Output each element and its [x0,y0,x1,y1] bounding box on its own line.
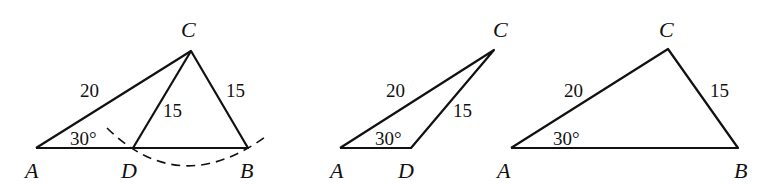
segment-cd [133,51,191,148]
label-side-cd: 15 [163,100,182,121]
label-angle-a: 30° [553,128,580,149]
label-side-ac: 20 [564,80,583,101]
label-side-cd: 15 [453,100,472,121]
label-point-a: A [23,158,39,183]
label-point-a: A [328,158,344,183]
triangle-diagrams: C 20 15 15 30° A D B C 20 15 30° A D C 2… [0,0,769,185]
figure-3-labels: C 20 15 30° A B [495,17,747,183]
label-side-cb: 15 [710,80,729,101]
label-side-ac: 20 [386,80,405,101]
label-point-b: B [240,158,253,183]
label-angle-a: 30° [70,128,97,149]
label-angle-a: 30° [375,128,402,149]
label-side-ac: 20 [80,80,99,101]
label-point-c: C [181,17,196,42]
label-point-c: C [659,17,674,42]
figure-2-labels: C 20 15 30° A D [328,17,508,183]
figure-3 [511,49,738,148]
triangle-acd [340,50,494,148]
diagram-canvas: C 20 15 15 30° A D B C 20 15 30° A D C 2… [0,0,769,185]
label-point-d: D [397,158,414,183]
label-side-cb: 15 [226,80,245,101]
label-point-c: C [493,17,508,42]
figure-2 [340,50,494,148]
label-point-d: D [120,158,137,183]
label-point-b: B [734,158,747,183]
triangle-acb [511,49,738,148]
label-point-a: A [495,158,511,183]
